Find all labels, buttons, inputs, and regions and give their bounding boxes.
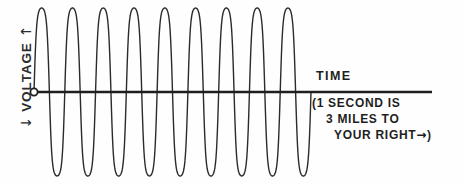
scale-note-line-3: YOUR RIGHT→) xyxy=(312,127,462,143)
scale-note-line-1: (1 SECOND IS xyxy=(312,95,462,111)
waveform-figure: ↓ VOLTAGE ↑ TIME (1 SECOND IS 3 MILES TO… xyxy=(0,0,463,186)
origin-circle xyxy=(30,88,37,95)
plot-area xyxy=(0,0,463,186)
scale-note-line-3-text: YOUR RIGHT xyxy=(334,128,416,142)
scale-note: (1 SECOND IS 3 MILES TO YOUR RIGHT→) xyxy=(312,95,462,143)
scale-note-line-2: 3 MILES TO xyxy=(312,111,462,127)
arrow-right-icon: → xyxy=(416,128,427,142)
scale-note-close-paren: ) xyxy=(427,128,432,142)
x-axis-label: TIME xyxy=(316,69,351,83)
